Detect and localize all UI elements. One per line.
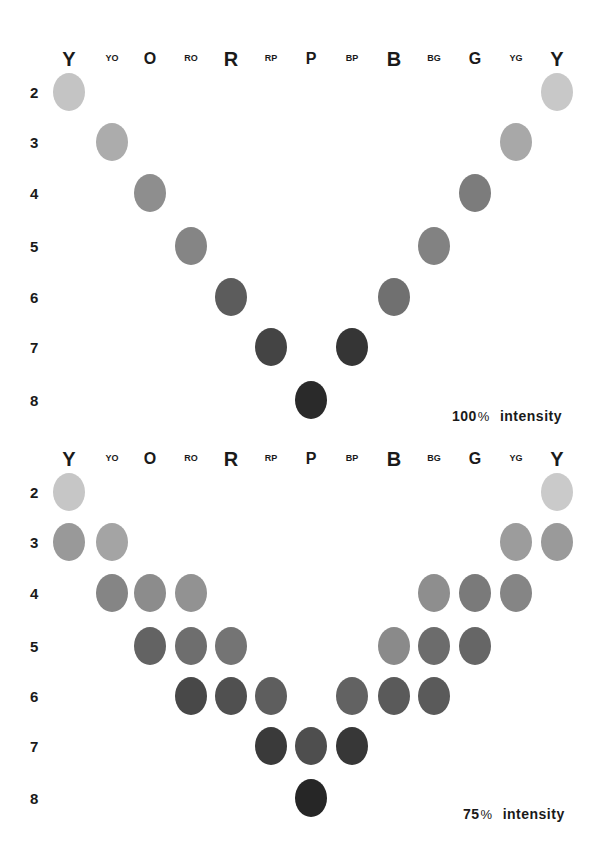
color-swatch-bp-7 bbox=[336, 727, 368, 765]
color-swatch-r-6 bbox=[215, 677, 247, 715]
color-swatch-bp-6 bbox=[336, 677, 368, 715]
color-swatch-bg-5 bbox=[418, 627, 450, 665]
column-label-rp: RP bbox=[265, 453, 278, 463]
color-swatch-y-2 bbox=[53, 473, 85, 511]
row-label-2: 2 bbox=[30, 484, 38, 501]
column-label-bp: BP bbox=[346, 453, 359, 463]
column-label-y: Y bbox=[550, 448, 563, 471]
color-swatch-ro-4 bbox=[175, 574, 207, 612]
intensity-word: intensity bbox=[503, 806, 565, 822]
color-swatch-yg-4 bbox=[500, 574, 532, 612]
color-swatch-ro-6 bbox=[175, 677, 207, 715]
column-label-bg: BG bbox=[427, 453, 441, 463]
color-swatch-yg-3 bbox=[500, 523, 532, 561]
color-swatch-yo-4 bbox=[96, 574, 128, 612]
color-swatch-p-7 bbox=[295, 727, 327, 765]
color-swatch-rp-6 bbox=[255, 677, 287, 715]
color-swatch-yo-3 bbox=[96, 523, 128, 561]
column-label-ro: RO bbox=[184, 453, 198, 463]
row-label-4: 4 bbox=[30, 585, 38, 602]
color-swatch-r-5 bbox=[215, 627, 247, 665]
row-label-7: 7 bbox=[30, 738, 38, 755]
column-label-p: P bbox=[306, 450, 317, 468]
color-swatch-ro-5 bbox=[175, 627, 207, 665]
color-swatch-o-4 bbox=[134, 574, 166, 612]
intensity-value: 75 bbox=[463, 806, 480, 822]
row-label-6: 6 bbox=[30, 688, 38, 705]
color-swatch-bg-4 bbox=[418, 574, 450, 612]
percent-sign: % bbox=[481, 807, 493, 822]
column-label-yo: YO bbox=[105, 453, 118, 463]
row-label-3: 3 bbox=[30, 534, 38, 551]
color-swatch-g-4 bbox=[459, 574, 491, 612]
color-swatch-y-2 bbox=[541, 473, 573, 511]
column-label-b: B bbox=[387, 448, 401, 471]
color-swatch-y-3 bbox=[53, 523, 85, 561]
column-label-yg: YG bbox=[509, 453, 522, 463]
column-label-y: Y bbox=[62, 448, 75, 471]
column-label-r: R bbox=[224, 448, 238, 471]
color-swatch-b-5 bbox=[378, 627, 410, 665]
color-swatch-o-5 bbox=[134, 627, 166, 665]
row-label-8: 8 bbox=[30, 790, 38, 807]
color-swatch-bg-6 bbox=[418, 677, 450, 715]
column-label-g: G bbox=[469, 450, 481, 468]
color-swatch-b-6 bbox=[378, 677, 410, 715]
row-label-5: 5 bbox=[30, 638, 38, 655]
intensity-label: 75%intensity bbox=[463, 806, 565, 822]
color-swatch-y-3 bbox=[541, 523, 573, 561]
color-swatch-rp-7 bbox=[255, 727, 287, 765]
color-swatch-g-5 bbox=[459, 627, 491, 665]
chart-75-intensity: YYOORORRPPBPBBGGYGY234567875%intensity bbox=[0, 0, 604, 863]
column-label-o: O bbox=[144, 450, 156, 468]
color-swatch-p-8 bbox=[295, 779, 327, 817]
